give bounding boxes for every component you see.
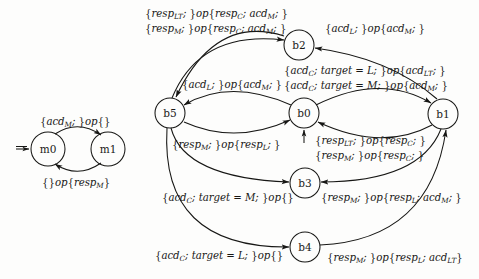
state-label-b0: b0	[297, 107, 310, 119]
state-label-b2: b2	[292, 39, 305, 51]
edge-m1-m0	[55, 163, 101, 171]
state-label-m0: m0	[40, 143, 57, 155]
state-machine-figure: m0 m1 b5 b0 b1 b2 b3 b4 {acdM; }op{} {}o…	[0, 0, 479, 279]
edge-label-b4-to-b1: {respM; }op{respL; acdLT}	[327, 252, 463, 267]
edge-label-b5-to-b2: {respLT; }op{respC; acdM; }{respM; }op{r…	[145, 8, 288, 38]
state-label-b3: b3	[298, 177, 311, 189]
edge-label-b1-to-b3: {respM; }op{respL; acdM; }	[321, 192, 462, 207]
edge-label-b1-to-b0: {respLT; }op{respC; }{respM; }op{respC; …	[315, 135, 426, 165]
edge-label-b1-to-b2: {acdL; }op{acdM; }	[325, 23, 425, 38]
state-label-m1: m1	[100, 143, 117, 155]
edge-label-b0-to-b1: {acdC; target = L; }op{acdLT; }{acdC; ta…	[284, 65, 448, 95]
state-label-b1: b1	[436, 108, 449, 120]
state-label-b5: b5	[163, 107, 176, 119]
edge-b5-b3	[171, 128, 289, 182]
edge-label-b5-to-b4: {acdC; target = L; }op{}	[155, 250, 283, 265]
state-label-b4: b4	[298, 241, 312, 253]
edge-label-m1-to-m0: {}op{respM}	[42, 177, 110, 192]
edge-b5-b0	[184, 120, 290, 133]
edge-label-m0-to-m1: {acdM; }op{}	[40, 116, 110, 131]
edge-label-b0-to-b5: {acdL; }op{acdM; }	[182, 79, 282, 94]
edge-label-b5-to-b3: {acdC; target = M; }op{}	[162, 192, 294, 207]
edge-label-b5-to-b0: {respM; }op{respL; }	[172, 139, 281, 154]
